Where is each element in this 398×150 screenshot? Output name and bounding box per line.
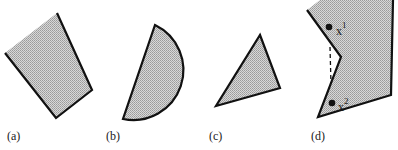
- shape-b-half-disc: [123, 25, 183, 120]
- panel-label-a: (a): [7, 129, 20, 144]
- shape-c-triangle: [216, 35, 280, 106]
- point-x1-label: x1: [336, 22, 347, 39]
- dashed-segment: [330, 47, 331, 84]
- panel-label-d: (d): [311, 129, 325, 144]
- point-x1-marker: [326, 24, 333, 31]
- shape-d-nonconvex: [307, 0, 393, 117]
- x2-superscript: 2: [344, 96, 349, 106]
- shape-a-quadrilateral: [5, 13, 92, 118]
- point-x2-label: x2: [338, 98, 349, 115]
- x1-superscript: 1: [342, 20, 347, 30]
- point-x2-marker: [329, 100, 336, 107]
- panel-label-c: (c): [209, 129, 222, 144]
- panel-label-b: (b): [106, 129, 120, 144]
